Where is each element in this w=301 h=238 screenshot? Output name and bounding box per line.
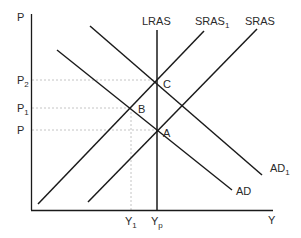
axes	[31, 14, 273, 211]
sras1-label: SRAS1	[195, 15, 230, 30]
output-label-y1: Y1	[125, 215, 137, 230]
output-label-yp: Yp	[151, 215, 163, 230]
ad1-label: AD1	[270, 162, 290, 177]
ad-label: AD	[236, 185, 251, 197]
point-c-label: C	[163, 78, 171, 90]
sras-label: SRAS	[245, 15, 275, 27]
point-a-label: A	[163, 127, 171, 139]
y-axis-label: P	[17, 11, 24, 23]
sras-curve	[88, 29, 257, 202]
ad-curve	[57, 50, 232, 190]
lras-label: LRAS	[142, 15, 171, 27]
x-axis-label: Y	[268, 214, 276, 226]
price-label-p2: P2	[17, 74, 29, 89]
sras1-curve	[38, 31, 204, 204]
point-b-label: B	[138, 103, 145, 115]
ad-as-diagram: P Y P2 P1 P Y1 Yp LRAS SRAS1 SRAS AD1 AD…	[0, 0, 301, 238]
curves	[38, 26, 262, 210]
ad1-curve	[90, 26, 262, 175]
price-label-p1: P1	[17, 102, 29, 117]
price-label-p: P	[17, 124, 24, 136]
